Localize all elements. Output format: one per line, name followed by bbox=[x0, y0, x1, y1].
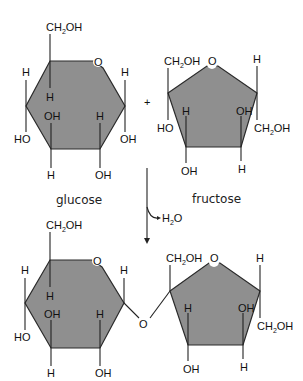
fructose-ring-oxygen: O bbox=[208, 55, 217, 67]
fructose-molecule: O CH2OH HO H CH2OH H OH OH H fructose bbox=[157, 53, 290, 206]
glucose-c5-h: H bbox=[46, 91, 54, 103]
fructose-c4-h: H bbox=[238, 163, 246, 175]
reaction-arrow: H2O bbox=[144, 168, 183, 244]
product-glucose-c5-h: H bbox=[46, 290, 54, 302]
glucose-c2-h: H bbox=[96, 110, 104, 122]
product-fructose-c3-h: H bbox=[184, 302, 192, 314]
fructose-right-ch2oh: CH2OH bbox=[254, 122, 290, 136]
product-fructose-right-ch2oh: CH2OH bbox=[257, 320, 293, 334]
glucose-c1-oh: OH bbox=[120, 133, 137, 145]
fructose-c3-oh: OH bbox=[181, 165, 198, 177]
fructose-label: fructose bbox=[192, 192, 241, 206]
glucose-molecule: O CH2OH H H OH H HO OH H H OH glucose bbox=[14, 21, 137, 207]
plus-operator: + bbox=[144, 96, 150, 108]
arrow-head-icon bbox=[144, 238, 150, 244]
glucose-c2-oh: OH bbox=[95, 169, 112, 181]
glucose-c4-h: H bbox=[22, 66, 30, 78]
glycosidic-oxygen: O bbox=[139, 318, 148, 330]
glucose-c3-oh: OH bbox=[44, 110, 61, 122]
glucose-ch2oh: CH2OH bbox=[46, 21, 82, 35]
product-glucose-c3-oh: OH bbox=[44, 308, 61, 320]
product-fructose-c4-h: H bbox=[240, 361, 248, 373]
glucose-label: glucose bbox=[56, 193, 102, 207]
glucose-c1-h: H bbox=[121, 66, 129, 78]
product-glucose-ring bbox=[25, 260, 124, 348]
sucrose-formation-diagram: O CH2OH H H OH H HO OH H H OH glucose + … bbox=[0, 0, 303, 381]
product-fructose-ring-oxygen: O bbox=[210, 252, 219, 264]
glucose-ring bbox=[26, 61, 125, 149]
glucose-c4-ho: HO bbox=[14, 133, 31, 145]
fructose-c2-ho: HO bbox=[157, 122, 174, 134]
water-release-arrow bbox=[147, 207, 158, 218]
product-fructose-c4-oh: OH bbox=[238, 302, 255, 314]
product-fructose-c3-oh: OH bbox=[183, 363, 200, 375]
product-glucose-c2-h: H bbox=[96, 308, 104, 320]
product-glucose-c3-h: H bbox=[47, 367, 55, 379]
glucose-c3-h: H bbox=[47, 169, 55, 181]
product-glucose-c2-oh: OH bbox=[95, 367, 112, 379]
fructose-c4-oh: OH bbox=[236, 105, 253, 117]
product-glucose-ch2oh: CH2OH bbox=[46, 219, 82, 233]
product-fructose-c5-h: H bbox=[256, 252, 264, 264]
sucrose-product: O CH2OH H H HO OH H H OH H O O CH2OH H C… bbox=[14, 219, 293, 379]
product-glucose-c4-ho: HO bbox=[14, 331, 31, 343]
product-glucose-c4-h: H bbox=[21, 264, 29, 276]
product-glucose-c1-h: H bbox=[120, 264, 128, 276]
fructose-left-ch2oh: CH2OH bbox=[164, 55, 200, 69]
water-byproduct: H2O bbox=[162, 212, 183, 226]
fructose-c3-h: H bbox=[182, 105, 190, 117]
glucose-ring-oxygen: O bbox=[94, 56, 103, 68]
fructose-c5-h: H bbox=[253, 53, 261, 65]
product-glucose-ring-oxygen: O bbox=[93, 255, 102, 267]
product-fructose-left-ch2oh: CH2OH bbox=[166, 252, 202, 266]
